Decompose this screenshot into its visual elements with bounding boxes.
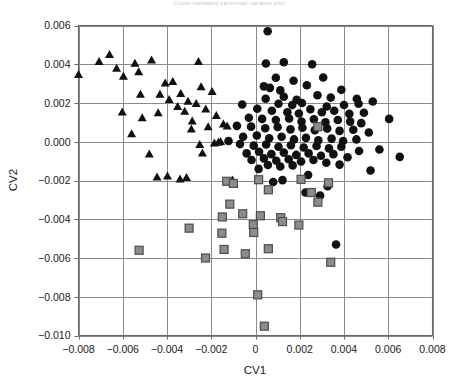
point-circle xyxy=(335,160,344,169)
point-circle xyxy=(253,131,262,140)
point-square xyxy=(249,221,257,229)
point-triangle xyxy=(134,67,143,75)
point-square xyxy=(295,221,303,229)
chart-figure: Cross-validated canonical variates plot … xyxy=(0,0,458,390)
point-circle xyxy=(262,140,271,149)
x-tick-label: 0 xyxy=(253,343,259,355)
point-circle xyxy=(295,109,304,118)
point-triangle xyxy=(154,108,163,116)
point-square xyxy=(327,258,335,266)
point-square xyxy=(264,186,272,194)
point-circle xyxy=(236,140,245,149)
point-circle xyxy=(343,153,352,162)
point-triangle xyxy=(127,129,136,137)
y-tick-label: 0.006 xyxy=(44,19,70,31)
point-square xyxy=(260,322,268,330)
point-circle xyxy=(318,108,327,117)
point-circle xyxy=(330,106,339,115)
y-axis-title: CV2 xyxy=(7,169,19,191)
point-triangle xyxy=(182,173,191,181)
point-triangle xyxy=(153,173,162,181)
series-triangle xyxy=(74,50,237,184)
point-circle xyxy=(385,115,394,124)
point-circle xyxy=(346,117,355,126)
point-circle xyxy=(245,113,254,122)
point-circle xyxy=(247,122,256,131)
point-circle xyxy=(247,156,256,165)
point-circle xyxy=(337,86,346,95)
point-triangle xyxy=(184,97,193,105)
point-circle xyxy=(262,59,271,68)
point-triangle xyxy=(180,107,189,115)
point-circle xyxy=(261,124,270,133)
point-circle xyxy=(278,176,287,185)
point-square xyxy=(307,189,315,197)
y-tick-label: −0.010 xyxy=(38,329,71,341)
point-circle xyxy=(308,60,317,69)
point-circle xyxy=(327,134,336,143)
point-triangle xyxy=(208,87,217,95)
point-triangle xyxy=(105,50,114,58)
point-square xyxy=(241,250,249,258)
point-circle xyxy=(264,161,273,170)
point-circle xyxy=(366,166,375,175)
point-circle xyxy=(357,119,366,128)
point-circle xyxy=(274,99,283,108)
point-circle xyxy=(261,94,270,103)
point-circle xyxy=(395,153,404,162)
point-circle xyxy=(335,127,344,136)
x-tick-label: −0.004 xyxy=(151,343,184,355)
point-circle xyxy=(332,240,341,249)
point-triangle xyxy=(74,70,83,78)
point-circle xyxy=(280,93,289,102)
point-triangle xyxy=(212,111,221,119)
y-tick-label: −0.008 xyxy=(38,291,71,303)
x-tick-label: 0.008 xyxy=(419,343,445,355)
point-square xyxy=(218,213,226,221)
point-triangle xyxy=(198,149,207,157)
y-tick-label: −0.006 xyxy=(38,252,71,264)
point-square xyxy=(226,200,234,208)
point-circle xyxy=(322,158,331,167)
point-circle xyxy=(303,81,312,90)
y-axis-tick-labels: 0.0060.0040.0020.000−0.002−0.004−0.006−0… xyxy=(38,19,71,341)
x-tick-label: −0.008 xyxy=(62,343,95,355)
point-triangle xyxy=(138,113,147,121)
point-square xyxy=(250,228,258,236)
series-circle xyxy=(224,27,404,249)
point-circle xyxy=(312,142,321,151)
point-triangle xyxy=(119,72,128,80)
point-square xyxy=(325,179,333,187)
point-triangle xyxy=(118,108,127,116)
point-circle xyxy=(306,105,315,114)
point-circle xyxy=(266,84,275,93)
y-tick-label: 0.002 xyxy=(44,97,70,109)
point-circle xyxy=(254,165,263,174)
point-square xyxy=(202,254,210,262)
point-triangle xyxy=(197,82,206,90)
point-circle xyxy=(277,132,286,141)
point-triangle xyxy=(163,171,172,179)
point-circle xyxy=(258,115,267,124)
point-triangle xyxy=(155,90,164,98)
point-square xyxy=(314,123,322,131)
point-square xyxy=(239,210,247,218)
point-circle xyxy=(224,137,233,146)
point-circle xyxy=(280,58,289,67)
point-triangle xyxy=(188,116,197,124)
point-circle xyxy=(360,108,369,117)
point-circle xyxy=(263,27,272,36)
point-circle xyxy=(298,99,307,108)
point-triangle xyxy=(165,95,174,103)
point-triangle xyxy=(161,78,170,86)
point-square xyxy=(278,218,286,226)
point-circle xyxy=(272,74,281,83)
point-triangle xyxy=(145,150,154,158)
scatter-plot: −0.008−0.006−0.004−0.00200.0020.0040.006… xyxy=(0,0,458,390)
point-circle xyxy=(285,114,294,123)
point-circle xyxy=(309,156,318,165)
point-circle xyxy=(276,162,285,171)
point-circle xyxy=(298,124,307,133)
point-square xyxy=(218,229,226,237)
point-triangle xyxy=(187,125,196,133)
